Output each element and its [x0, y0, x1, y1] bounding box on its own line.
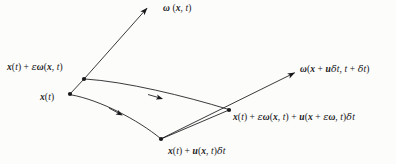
label-x-full: x(t) + εω(x, t) + u(x + εω, t)δt	[233, 112, 355, 123]
label-omega-advected: ω(x + uδt, t + δt)	[300, 64, 369, 75]
figure-canvas: ω (x, t) ω(x + uδt, t + δt) x(t) + εω(x,…	[0, 0, 396, 164]
label-x-plus-u-dt: x(t) + u(x, t)δt	[168, 146, 226, 157]
arrowhead-upper-trajectory	[148, 95, 160, 99]
node-x-full	[227, 108, 231, 112]
arrow-lower-trajectory	[71, 95, 160, 139]
node-x-plus-eps-omega	[82, 77, 86, 81]
label-x-of-t: x(t)	[40, 93, 54, 103]
label-omega-at-x-t: ω (x, t)	[163, 4, 192, 14]
node-x-of-t	[68, 92, 72, 96]
arrow-omega-at-x	[85, 8, 147, 78]
arrowhead-lower-trajectory	[109, 108, 120, 114]
arrow-upper-trajectory	[85, 79, 228, 109]
segment-initial-line	[70, 79, 84, 94]
label-x-plus-eps-omega: x(t) + εω(x, t)	[7, 62, 63, 73]
diagram-svg	[0, 0, 396, 164]
arrow-omega-advected	[162, 73, 295, 139]
node-x-plus-u-dt	[159, 137, 163, 141]
segment-final-line	[161, 110, 229, 139]
